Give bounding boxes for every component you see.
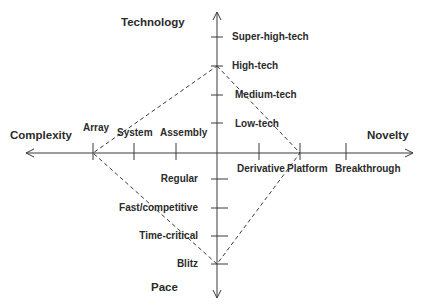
novelty-level-derivative: Derivative [237,163,285,174]
technology-axis-title: Technology [121,16,185,28]
novelty-level-breakthrough: Breakthrough [335,163,401,174]
complexity-ticks [93,143,176,160]
pace-axis-title: Pace [151,281,178,293]
technology-level-medium-tech: Medium-tech [235,89,297,100]
complexity-level-assembly: Assembly [160,127,207,138]
technology-level-low-tech: Low-tech [235,118,279,129]
technology-level-high-tech: High-tech [232,60,278,71]
novelty-ticks [259,143,346,160]
complexity-axis-title: Complexity [10,129,72,141]
technology-level-super-high-tech: Super-high-tech [232,31,309,42]
diamond-diagram [0,0,422,307]
pace-ticks [211,179,228,264]
pace-level-blitz: Blitz [177,258,198,269]
pace-level-regular: Regular [161,173,198,184]
complexity-level-array: Array [83,122,109,133]
complexity-level-system: System [117,127,153,138]
novelty-level-platform: Platform [287,163,328,174]
novelty-axis-title: Novelty [367,129,409,141]
pace-level-time-critical: Time-critical [139,230,198,241]
pace-level-fast-competitive: Fast/competitive [119,202,198,213]
